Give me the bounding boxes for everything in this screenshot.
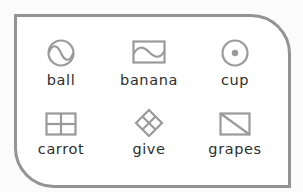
item-label: give [104, 140, 194, 158]
item-give: give [104, 108, 194, 158]
circle-wave-icon [46, 38, 76, 68]
item-carrot: carrot [16, 112, 106, 158]
item-cup: cup [190, 38, 280, 89]
diamond-grid-icon [133, 108, 165, 138]
item-label: grapes [190, 140, 280, 158]
item-label: ball [16, 71, 106, 89]
grid-rect-icon [45, 112, 77, 136]
item-banana: banana [104, 40, 194, 89]
rect-wave-icon [132, 40, 166, 66]
item-label: cup [190, 71, 280, 89]
item-label: carrot [16, 140, 106, 158]
item-ball: ball [16, 38, 106, 89]
rect-diagonal-icon [219, 112, 251, 136]
item-label: banana [104, 71, 194, 89]
circle-dot-icon [220, 38, 250, 68]
item-grapes: grapes [190, 112, 280, 158]
